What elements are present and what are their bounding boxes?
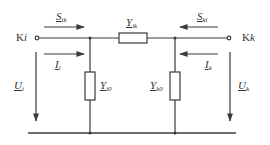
label-s-ik: Sik	[56, 11, 67, 22]
label-i-i: Ii	[55, 59, 61, 70]
label-s-ki: Ski	[197, 11, 208, 22]
series-admittance-box	[119, 33, 147, 43]
label-y-k0: Yk0	[150, 80, 163, 91]
shunt-right-box	[170, 72, 180, 100]
terminal-left	[35, 36, 39, 40]
label-y-i0: Yi0	[100, 80, 112, 91]
label-i-k: Ik	[205, 59, 212, 70]
junction-right-bottom	[174, 132, 177, 135]
terminal-label-left: Ki	[16, 32, 27, 43]
label-u-k: Uk	[238, 80, 249, 91]
terminal-right	[227, 36, 231, 40]
label-y-ik: Yik	[126, 17, 137, 28]
shunt-left-box	[85, 72, 95, 100]
junction-left-top	[89, 37, 92, 40]
junction-left-bottom	[89, 132, 92, 135]
label-u-i: Ui	[14, 80, 24, 91]
junction-right-top	[174, 37, 177, 40]
terminal-label-right: Kk	[242, 32, 255, 43]
